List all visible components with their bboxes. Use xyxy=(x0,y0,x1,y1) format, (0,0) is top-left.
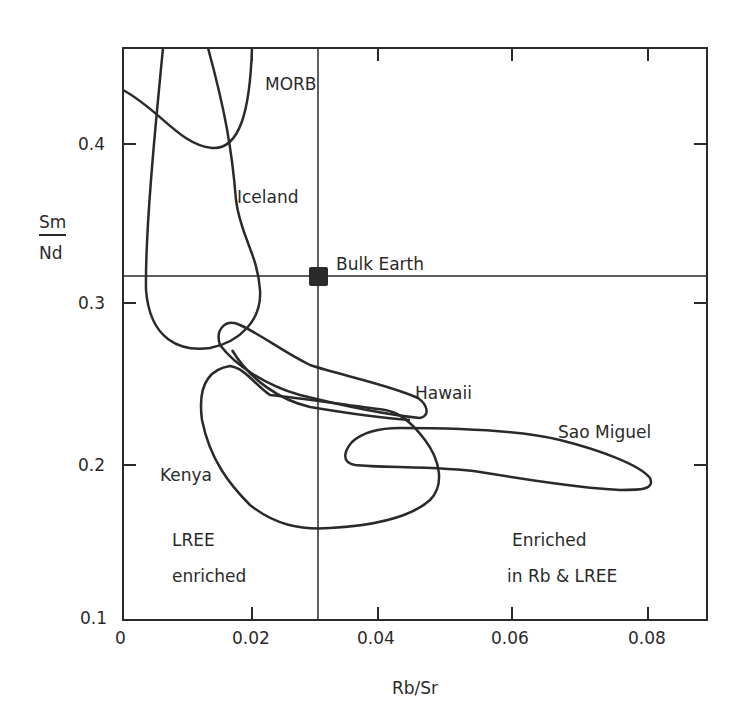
morb-field xyxy=(123,48,252,148)
label-lree-enriched: enriched xyxy=(172,566,246,586)
y-axis-label-numerator: Sm xyxy=(39,212,66,236)
y-axis-label-denominator: Nd xyxy=(39,243,63,263)
y-tick-03: 0.3 xyxy=(78,293,105,313)
y-tick-02: 0.2 xyxy=(78,455,105,475)
bulk-earth-marker xyxy=(309,267,328,286)
x-tick-008: 0.08 xyxy=(628,628,666,648)
label-hawaii: Hawaii xyxy=(415,383,472,403)
label-iceland: Iceland xyxy=(237,187,299,207)
x-tick-006: 0.06 xyxy=(491,628,529,648)
x-axis-label: Rb/Sr xyxy=(392,678,438,698)
y-tick-04: 0.4 xyxy=(78,134,105,154)
label-enriched: Enriched xyxy=(512,530,587,550)
y-tick-01: 0.1 xyxy=(80,608,107,628)
kenya-field xyxy=(201,366,439,528)
hawaii-field xyxy=(219,323,427,418)
x-tick-0: 0 xyxy=(115,628,126,648)
label-morb: MORB xyxy=(265,74,317,94)
x-tick-004: 0.04 xyxy=(357,628,395,648)
chart-canvas xyxy=(0,0,742,724)
label-kenya: Kenya xyxy=(160,465,212,485)
label-bulk-earth: Bulk Earth xyxy=(336,254,424,274)
x-tick-002: 0.02 xyxy=(232,628,270,648)
label-lree: LREE xyxy=(172,530,215,550)
label-sao-miguel: Sao Miguel xyxy=(558,422,651,442)
label-enriched-rb-lree: in Rb & LREE xyxy=(507,566,617,586)
